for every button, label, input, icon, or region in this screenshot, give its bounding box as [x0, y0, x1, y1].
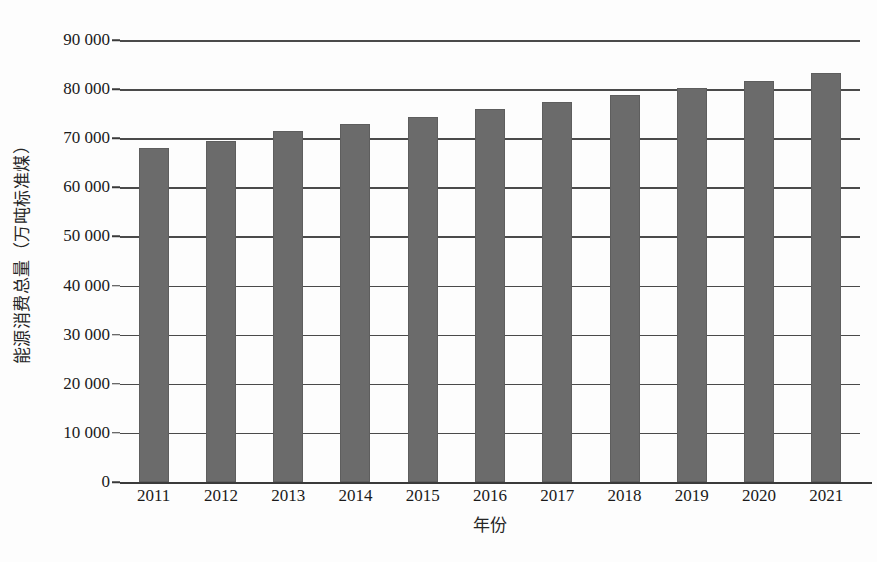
- y-axis-tick-mark: [112, 481, 120, 483]
- bar: [139, 148, 169, 482]
- y-axis-tick-label: 60 000: [63, 177, 110, 197]
- x-axis-tick-label: 2014: [338, 486, 372, 506]
- bar: [811, 73, 841, 482]
- y-axis-tick-mark: [112, 383, 120, 385]
- x-axis-tick-label: 2017: [540, 486, 574, 506]
- bar: [273, 131, 303, 482]
- bar: [206, 141, 236, 482]
- y-axis-tick-mark: [112, 236, 120, 238]
- y-axis-tick-mark: [112, 187, 120, 189]
- bar-series: [120, 0, 860, 482]
- x-axis-tick-label: 2011: [137, 486, 170, 506]
- x-axis-tick-label: 2016: [473, 486, 507, 506]
- y-axis-tick-labels: 010 00020 00030 00040 00050 00060 00070 …: [42, 0, 120, 562]
- y-axis-tick-label: 0: [102, 472, 111, 492]
- bar-chart-figure: 能源消费总量（万吨标准煤） 010 00020 00030 00040 0005…: [0, 0, 877, 562]
- x-axis-tick-label: 2013: [271, 486, 305, 506]
- bar: [610, 95, 640, 482]
- y-axis-tick-mark: [112, 334, 120, 336]
- y-axis-tick-mark: [112, 285, 120, 287]
- bar: [340, 124, 370, 482]
- x-axis-tick-label: 2012: [204, 486, 238, 506]
- bar: [408, 117, 438, 482]
- bar: [475, 109, 505, 482]
- y-axis-tick-label: 50 000: [63, 226, 110, 246]
- bar: [677, 88, 707, 482]
- y-axis-tick-label: 20 000: [63, 374, 110, 394]
- y-axis-tick-label: 30 000: [63, 325, 110, 345]
- y-axis-title: 能源消费总量（万吨标准煤）: [0, 0, 42, 500]
- x-axis-title: 年份: [120, 511, 860, 536]
- y-axis-tick-label: 90 000: [63, 30, 110, 50]
- x-axis-tick-label: 2020: [742, 486, 776, 506]
- bar: [744, 81, 774, 482]
- x-axis-tick-label: 2018: [608, 486, 642, 506]
- bar: [542, 102, 572, 482]
- x-axis-line: [120, 482, 872, 484]
- x-axis-tick-label: 2015: [406, 486, 440, 506]
- y-axis-tick-mark: [112, 432, 120, 434]
- y-axis-tick-mark: [112, 137, 120, 139]
- y-axis-tick-mark: [112, 39, 120, 41]
- x-axis-tick-label: 2019: [675, 486, 709, 506]
- y-axis-tick-label: 70 000: [63, 128, 110, 148]
- y-axis-tick-label: 80 000: [63, 79, 110, 99]
- y-axis-tick-mark: [112, 88, 120, 90]
- y-axis-tick-label: 10 000: [63, 423, 110, 443]
- x-axis-tick-label: 2021: [809, 486, 843, 506]
- y-axis-title-label: 能源消费总量（万吨标准煤）: [9, 136, 34, 364]
- y-axis-tick-label: 40 000: [63, 276, 110, 296]
